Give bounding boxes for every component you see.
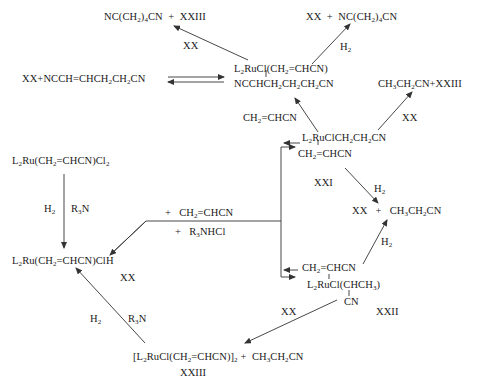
dimer-label: XXIII	[180, 367, 206, 379]
xxii-line2: L2RuCl(CHCH3)	[307, 279, 380, 291]
right-products-top: CH3CH2CN+XXIII	[378, 78, 462, 90]
reagent-h2-xxi: H2	[374, 183, 385, 195]
dimer-products: [L2RuCl(CH2=CHCN)]2 + CH3CH2CN	[133, 351, 304, 363]
reagent-h2-bottom: H2	[90, 313, 101, 325]
xxii-label: XXII	[376, 306, 399, 318]
start-complex: L2Ru(CH2=CHCN)Cl2	[12, 155, 110, 167]
central-complex-line1: L2RuCl(CH2=CHCN)	[234, 63, 328, 75]
hydride-label: XX	[120, 272, 135, 284]
xxii-line3: CN	[344, 296, 359, 308]
branch-release-salt: + R3NHCl	[175, 226, 225, 238]
reagent-h2-xxii: H2	[381, 236, 392, 248]
central-complex-line2: NCCHCH2CH2CH2CN	[234, 78, 334, 90]
hydride-complex: L2Ru(CH2=CHCN)ClH	[12, 255, 114, 267]
xxi-line1: L2RuClCH2CH2CN	[302, 132, 386, 144]
reagent-h2-top-right: H2	[340, 41, 351, 53]
arrow-xxi-to-propionitrile	[378, 92, 412, 130]
xxii-line1: CH2=CHCN	[302, 262, 356, 274]
reaction-scheme: NC(CH2)4CN + XXIII XX + NC(CH2)4CN XX H2…	[0, 0, 477, 388]
xxi-label: XXI	[314, 177, 333, 189]
top-left-products: NC(CH2)4CN + XXIII	[104, 11, 206, 23]
arrow-branch-to-hydride	[110, 221, 146, 255]
arrow-xxi-to-central	[295, 98, 318, 132]
xxi-line2: CH2=CHCN	[298, 148, 352, 160]
reagent-xx-xxii: XX	[281, 306, 296, 318]
reagent-xx-top-left: XX	[183, 40, 198, 52]
reagent-xx-right: XX	[402, 112, 417, 124]
reagent-r3n-vertical: R3N	[71, 203, 89, 215]
equilibrium-reactants: XX+NCCH=CHCH2CH2CN	[22, 73, 145, 85]
branch-add-acrylonitrile: + CH2=CHCN	[165, 207, 233, 219]
acrylonitrile-label: CH2=CHCN	[243, 112, 297, 124]
top-right-products: XX + NC(CH2)4CN	[306, 11, 397, 23]
reagent-r3n-bottom: R3N	[128, 313, 146, 325]
middle-products: XX + CH3CH2CN	[352, 205, 441, 217]
reaction-arrows	[0, 0, 477, 388]
reagent-h2-vertical: H2	[44, 203, 55, 215]
